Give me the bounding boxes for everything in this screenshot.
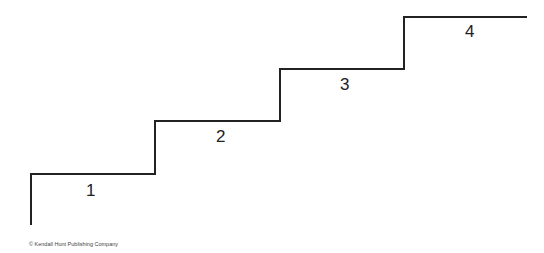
step-label-1: 1 <box>86 181 95 201</box>
step-label-2: 2 <box>216 127 225 147</box>
staircase-line <box>0 0 544 253</box>
step-label-4: 4 <box>465 22 474 42</box>
step-label-3: 3 <box>340 75 349 95</box>
copyright-text: © Kendall Hunt Publishing Company <box>29 241 118 247</box>
